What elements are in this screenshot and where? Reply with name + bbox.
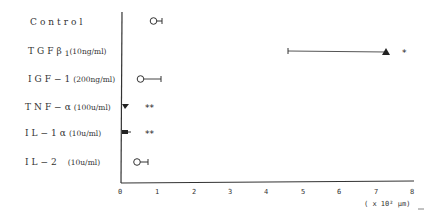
- y-axis: [121, 12, 122, 183]
- label-il1-main: IL−1α: [25, 128, 69, 138]
- label-igf-main: IGF−1: [28, 74, 73, 84]
- x-tick-3: 3: [228, 188, 232, 196]
- point-igf: [137, 76, 161, 83]
- label-tgf-dose: (10ng/ml): [69, 47, 106, 56]
- label-il2-dose: (10u/ml): [68, 158, 100, 167]
- x-axis-unit: ( x 10² μm): [364, 200, 410, 208]
- point-tgf: [288, 48, 390, 55]
- x-axis: [121, 181, 414, 183]
- label-il2: IL−2(10u/ml): [25, 157, 100, 167]
- x-tick-7: 7: [374, 188, 378, 196]
- sig-tnf: **: [145, 103, 155, 113]
- label-control: Control: [30, 17, 85, 27]
- label-tgf-main: TGFβ: [28, 46, 65, 56]
- label-il2-main: IL−2: [25, 157, 60, 167]
- chart: Control TGFβ1(10ng/ml) IGF−1(200ng/ml) T…: [0, 0, 438, 218]
- x-tick-0: 0: [118, 188, 122, 196]
- x-tick-2: 2: [192, 188, 196, 196]
- sig-il1: **: [145, 129, 155, 139]
- point-control: [150, 18, 162, 25]
- x-tick-8: 8: [410, 188, 414, 196]
- x-tick-labels: 0 1 2 3 4 5 6 7 8: [118, 188, 414, 196]
- label-tnf-main: TNF−α: [25, 102, 74, 112]
- x-tick-5: 5: [301, 188, 305, 196]
- label-tnf-dose: (100u/ml): [74, 103, 111, 112]
- x-tick-1: 1: [155, 188, 159, 196]
- label-tnf: TNF−α(100u/ml): [25, 102, 111, 112]
- point-il1: [122, 130, 131, 134]
- label-igf: IGF−1(200ng/ml): [28, 74, 115, 84]
- point-il2: [134, 159, 148, 166]
- label-igf-dose: (200ng/ml): [73, 75, 115, 84]
- sig-tgf: *: [402, 48, 407, 58]
- x-tick-4: 4: [264, 188, 268, 196]
- label-il1: IL−1α(10u/ml): [25, 128, 101, 138]
- x-tick-6: 6: [337, 188, 341, 196]
- label-il1-dose: (10u/ml): [69, 129, 101, 138]
- point-tnf: [122, 104, 129, 109]
- label-tgf: TGFβ1(10ng/ml): [28, 46, 107, 58]
